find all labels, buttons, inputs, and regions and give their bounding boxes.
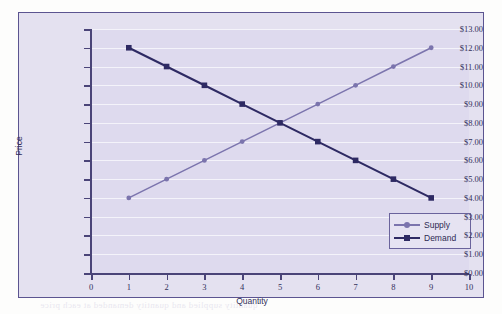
- x-axis-tick-label: 1: [119, 282, 139, 292]
- y-axis-tick-label: $4.00: [419, 193, 483, 203]
- data-point-demand: [239, 101, 245, 107]
- x-axis-tick-label: 5: [270, 282, 290, 292]
- supply-line-swatch: [394, 219, 420, 230]
- data-point-demand: [164, 64, 170, 70]
- y-axis-tick-label: $3.00: [419, 212, 483, 222]
- x-axis-tick: [356, 274, 358, 280]
- y-axis-title: Price: [14, 136, 24, 155]
- x-axis-tick-label: 2: [157, 282, 177, 292]
- x-axis-tick-label: 3: [194, 282, 214, 292]
- y-axis-tick-label: $10.00: [419, 80, 483, 90]
- x-axis-tick: [91, 274, 93, 280]
- y-axis-tick: [84, 142, 91, 144]
- y-axis-tick: [84, 160, 91, 162]
- demand-line-swatch: [394, 232, 420, 243]
- y-axis-tick: [84, 254, 91, 256]
- data-point-demand: [202, 83, 208, 89]
- chart-frame: Price Quantity Supply Demand $13.00$12.0…: [18, 12, 484, 298]
- x-axis-tick: [318, 274, 320, 280]
- y-axis-tick-label: $1.00: [419, 249, 483, 259]
- y-axis-tick: [84, 123, 91, 125]
- data-point-demand: [353, 158, 359, 164]
- y-axis-tick-label: $7.00: [419, 137, 483, 147]
- data-point-demand: [315, 139, 321, 145]
- y-axis-tick: [84, 29, 91, 31]
- y-axis-tick-label: $5.00: [419, 174, 483, 184]
- y-axis-tick: [84, 198, 91, 200]
- y-axis-tick-label: $9.00: [419, 99, 483, 109]
- x-axis-tick-label: 9: [421, 282, 441, 292]
- data-point-supply: [126, 196, 131, 201]
- y-axis-tick-label: $13.00: [419, 24, 483, 34]
- data-point-demand: [277, 120, 283, 126]
- x-axis-tick: [204, 274, 206, 280]
- data-point-supply: [164, 177, 169, 182]
- x-axis-tick-label: 6: [308, 282, 328, 292]
- data-point-supply: [353, 83, 358, 88]
- data-point-supply: [202, 158, 207, 163]
- y-axis-tick: [84, 85, 91, 87]
- x-axis-tick: [280, 274, 282, 280]
- x-axis-tick: [129, 274, 131, 280]
- data-series-layer: [19, 13, 485, 299]
- x-axis-tick-label: 10: [459, 282, 479, 292]
- y-axis-tick-label: $6.00: [419, 155, 483, 165]
- x-axis-title: Quantity: [19, 296, 485, 306]
- y-axis-tick: [84, 179, 91, 181]
- x-axis-tick-label: 0: [81, 282, 101, 292]
- y-axis-tick: [84, 273, 91, 275]
- x-axis-tick-label: 4: [232, 282, 252, 292]
- x-axis-tick-label: 7: [346, 282, 366, 292]
- y-axis-tick-label: $0.00: [419, 268, 483, 278]
- data-point-supply: [240, 139, 245, 144]
- y-axis-tick: [84, 217, 91, 219]
- y-axis-tick-label: $12.00: [419, 43, 483, 53]
- data-point-demand: [126, 45, 132, 51]
- y-axis-tick: [84, 48, 91, 50]
- y-axis-tick: [84, 67, 91, 69]
- y-axis-tick-label: $11.00: [419, 62, 483, 72]
- data-point-supply: [315, 102, 320, 107]
- data-point-supply: [391, 64, 396, 69]
- data-point-demand: [391, 176, 397, 182]
- y-axis-tick: [84, 104, 91, 106]
- scanned-page: demand schedule and the market for equil…: [0, 0, 502, 314]
- x-axis-tick: [469, 274, 471, 280]
- x-axis-tick: [167, 274, 169, 280]
- x-axis-tick: [431, 274, 433, 280]
- x-axis-tick: [393, 274, 395, 280]
- y-axis-tick-label: $2.00: [419, 230, 483, 240]
- y-axis-tick-label: $8.00: [419, 118, 483, 128]
- x-axis-tick: [242, 274, 244, 280]
- x-axis-tick-label: 8: [383, 282, 403, 292]
- y-axis-tick: [84, 235, 91, 237]
